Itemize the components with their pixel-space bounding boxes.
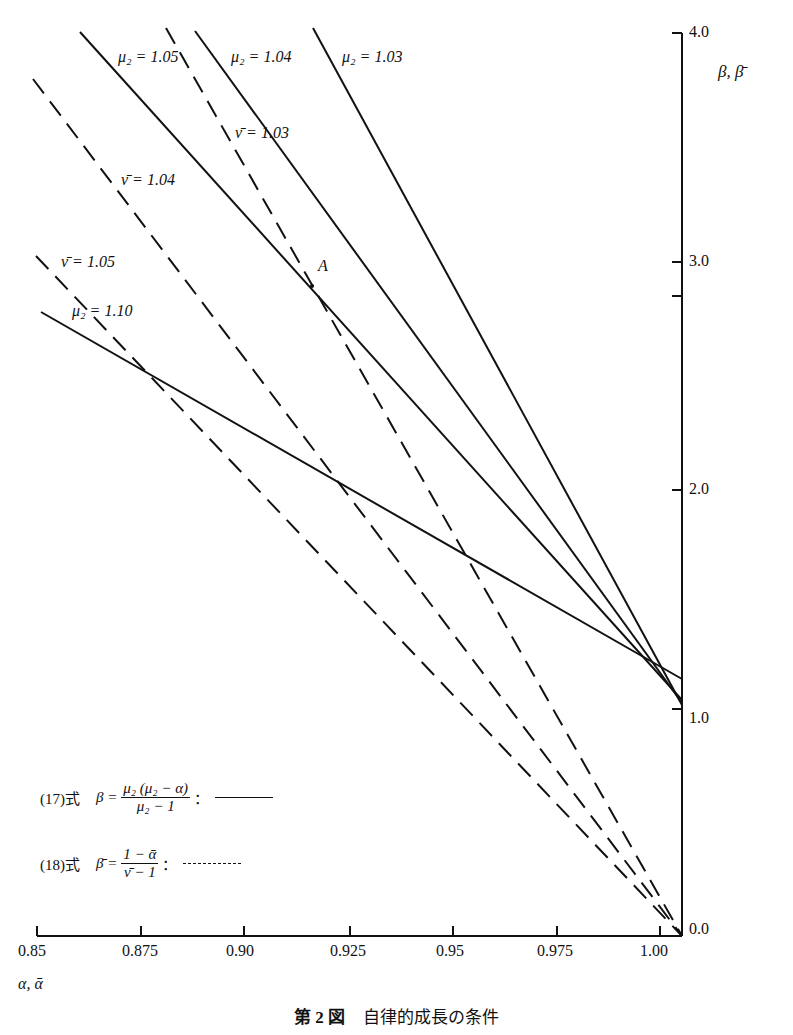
label-point-a: A: [318, 257, 328, 275]
y-tick-label-1: 1.0: [689, 709, 709, 727]
x-tick-label-1: 0.875: [122, 942, 158, 960]
x-tick-label-2: 0.90: [226, 942, 254, 960]
legend-dashed-line-sample: [183, 863, 241, 864]
point-a-marker: [310, 284, 314, 288]
legend-eq18-fraction: 1 − ᾱ ν̄ − 1: [121, 846, 158, 881]
label-nu-1.05: ν̄ = 1.05: [61, 253, 115, 271]
legend-eq17: (17)式 β = μ₂ (μ₂ − α) μ₂ − 1 ：: [40, 780, 273, 815]
figure-number: 第 2 図: [294, 1008, 345, 1027]
legend-eq17-numerator: μ₂ (μ₂ − α): [121, 780, 190, 798]
x-tick-label-6: 1.00: [640, 942, 668, 960]
legend-eq18: (18)式 β̄ = 1 − ᾱ ν̄ − 1 ：: [40, 846, 241, 881]
label-mu2-1.04: μ₂ = 1.04: [231, 48, 291, 66]
y-tick-label-0: 0.0: [689, 920, 709, 938]
legend-eq17-prefix: (17)式: [40, 787, 80, 808]
y-tick-label-3: 3.0: [689, 252, 709, 270]
x-tick-label-3: 0.925: [330, 942, 366, 960]
x-tick-label-5: 0.975: [537, 942, 573, 960]
x-tick-label-4: 0.95: [436, 942, 464, 960]
label-nu-1.03: ν̄ = 1.03: [235, 124, 289, 142]
legend-eq17-denominator: μ₂ − 1: [137, 798, 175, 815]
legend-solid-line-sample: [215, 797, 273, 798]
legend-eq18-colon: ：: [162, 853, 177, 874]
x-axis-title: α, ᾱ: [18, 975, 43, 993]
legend-eq17-lhs: β =: [96, 789, 117, 806]
line-mu2-1.10: [41, 312, 682, 679]
legend-eq18-numerator: 1 − ᾱ: [121, 846, 158, 864]
figure-caption: 第 2 図 自律的成長の条件: [0, 1003, 793, 1028]
y-axis-title: β, β̄: [718, 62, 743, 82]
label-nu-1.04: ν̄ = 1.04: [121, 171, 175, 189]
line-nu-1.05: [36, 256, 682, 936]
line-mu2-1.05: [80, 32, 682, 700]
label-mu2-1.05: μ₂ = 1.05: [118, 48, 178, 66]
legend-eq17-fraction: μ₂ (μ₂ − α) μ₂ − 1: [121, 780, 190, 815]
y-tick-label-4: 4.0: [689, 23, 709, 41]
line-mu2-1.03: [313, 28, 682, 705]
x-tick-label-0: 0.85: [18, 942, 46, 960]
label-mu2-1.03: μ₂ = 1.03: [342, 48, 402, 66]
y-tick-label-2: 2.0: [689, 480, 709, 498]
legend-eq18-denominator: ν̄ − 1: [124, 864, 156, 881]
figure-title: 自律的成長の条件: [363, 1008, 499, 1027]
label-mu2-1.10: μ₂ = 1.10: [72, 302, 132, 320]
legend-eq18-prefix: (18)式: [40, 853, 80, 874]
legend-eq17-colon: ：: [194, 787, 209, 808]
legend-eq18-lhs: β̄ =: [96, 855, 117, 872]
